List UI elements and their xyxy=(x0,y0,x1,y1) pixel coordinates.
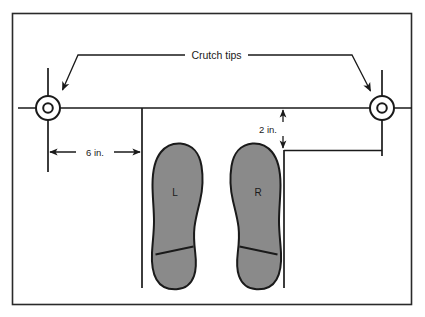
right-foot-shape: R xyxy=(230,143,281,289)
crutch-tips-label: Crutch tips xyxy=(191,49,241,61)
left-foot-outline xyxy=(152,143,203,289)
left-crutch-tip-inner-ring-icon xyxy=(43,103,53,113)
two-inch-label: 2 in. xyxy=(259,124,277,135)
figure-root: Crutch tips 6 in. 2 in. L R xyxy=(0,0,425,317)
left-foot-shape: L xyxy=(152,143,203,289)
crutch-tip-foot-placement-diagram: Crutch tips 6 in. 2 in. L R xyxy=(0,0,425,317)
right-foot-outline xyxy=(230,143,281,289)
right-foot-label: R xyxy=(254,187,261,198)
left-foot-label: L xyxy=(172,187,178,198)
six-inch-label: 6 in. xyxy=(86,147,104,158)
right-crutch-tip-inner-ring-icon xyxy=(377,103,387,113)
